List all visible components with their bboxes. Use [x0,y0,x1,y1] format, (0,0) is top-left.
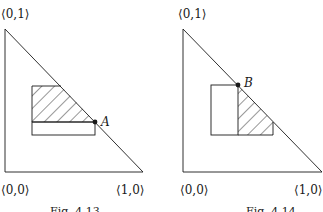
lower-rectangle [32,122,95,135]
point-b-marker [236,83,241,88]
diagram-canvas: ⟨0,1⟩ A ⟨0,0⟩ ⟨1,0⟩ Fig. 4.13 ⟨0,1⟩ B ⟨0… [0,0,323,212]
figure-caption: Fig. 4.14 [246,205,296,212]
label-bottom-right: ⟨1,0⟩ [116,183,144,197]
label-bottom-left: ⟨0,0⟩ [1,183,29,197]
figure-4-13: ⟨0,1⟩ A ⟨0,0⟩ ⟨1,0⟩ Fig. 4.13 [1,7,144,212]
hatched-region [32,86,95,122]
point-a-marker [93,120,98,125]
figure-4-14: ⟨0,1⟩ B ⟨0,0⟩ ⟨1,0⟩ Fig. 4.14 [178,7,322,212]
label-bottom-right: ⟨1,0⟩ [294,183,322,197]
figure-caption: Fig. 4.13 [50,205,100,212]
label-top-left: ⟨0,1⟩ [1,7,29,21]
left-rectangle [211,85,238,135]
label-top-left: ⟨0,1⟩ [178,7,206,21]
point-a-label: A [100,115,110,129]
label-bottom-left: ⟨0,0⟩ [180,183,208,197]
point-b-label: B [243,76,253,90]
hatched-region [238,85,273,135]
